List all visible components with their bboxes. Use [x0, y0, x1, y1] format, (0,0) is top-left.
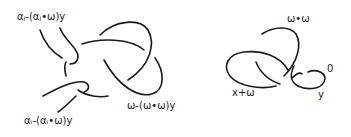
label-omega-dot-omega: ω•ω	[287, 14, 310, 24]
left-knot-strand-a	[40, 30, 62, 58]
left-knot-leader-bottom	[58, 96, 76, 112]
left-knot-arc-top	[100, 22, 151, 80]
label-omega-minus: ω-(ω•ω)y	[127, 101, 175, 111]
label-y: y	[318, 90, 324, 100]
left-knot-arc-middle	[82, 40, 144, 50]
left-knot	[40, 22, 162, 112]
label-zero: 0	[327, 64, 333, 74]
right-knot-small-loop	[291, 66, 325, 89]
right-knot-arc-inner	[256, 62, 280, 84]
label-x-plus-omega: x+ω	[232, 88, 255, 98]
right-knot	[226, 28, 324, 89]
left-knot-arc-bottom-right	[78, 90, 108, 97]
left-knot-strand-b	[60, 28, 78, 64]
right-knot-loop-crossing	[292, 73, 302, 78]
left-knot-strand-c	[65, 62, 66, 76]
right-knot-arc-left	[226, 52, 288, 88]
left-knot-arc-bottom-left	[43, 82, 89, 96]
label-alpha-j: αⱼ-(αⱼ•ω)y	[17, 12, 65, 22]
label-alpha-i: αᵢ-(αᵢ•ω)y	[24, 116, 72, 126]
